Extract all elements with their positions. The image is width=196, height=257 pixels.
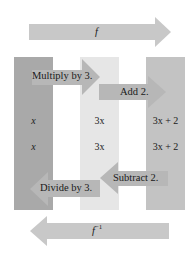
inverse-function-arrow xyxy=(0,0,196,257)
inverse-function-label: f−1 xyxy=(92,224,102,236)
inverse-superscript: −1 xyxy=(95,223,102,231)
